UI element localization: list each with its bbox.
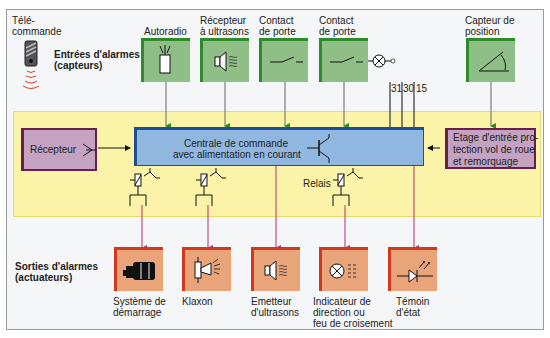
led-icon [395, 256, 435, 286]
actuator-label-led-1: Témoin [396, 296, 429, 307]
actuator-label-emitter-1: Emetteur [251, 296, 292, 307]
lamp-indicator-icon [329, 262, 363, 282]
horn-icon [193, 255, 225, 287]
actuator-label-indicator-1: Indicateur de [313, 296, 371, 307]
actuator-label-horn: Klaxon [182, 296, 213, 307]
receiver-label: Récepteur [30, 144, 76, 156]
relay-icon [128, 168, 168, 206]
input-stage-label-3: et remorquage [453, 156, 518, 168]
input-stage-box: Etage d'entrée pro- tection vol de roue … [445, 128, 536, 169]
actuator-label-starter-2: démarrage [113, 307, 161, 318]
ultrasonic-emitter-icon [263, 260, 291, 282]
receiver-box: Récepteur [21, 128, 97, 171]
actuator-horn [182, 247, 231, 291]
actuator-starter [114, 247, 163, 291]
input-stage-label-1: Etage d'entrée pro- [453, 132, 538, 144]
actuator-label-indicator-3: feu de croisement [313, 318, 393, 329]
central-label-1: Centrale de commande [184, 138, 288, 149]
transistor-icon [307, 134, 337, 164]
actuator-label-starter-1: Système de [113, 296, 166, 307]
central-label-2: avec alimentation en courant [173, 149, 301, 160]
actuator-status-led [388, 247, 437, 291]
actuator-ultrasonic-emitter [251, 247, 300, 291]
input-stage-label-2: tection vol de roue [453, 144, 535, 156]
outputs-title-1: Sorties d'alarmes [15, 261, 98, 272]
actuator-label-indicator-2: direction ou [313, 307, 365, 318]
starter-motor-icon [123, 258, 159, 284]
relay-icon [331, 168, 371, 206]
actuator-label-emitter-2: d'ultrasons [251, 307, 299, 318]
actuator-indicator [319, 247, 368, 291]
actuator-label-led-2: d'état [396, 307, 420, 318]
central-control-unit: Centrale de commande avec alimentation e… [134, 127, 424, 166]
outputs-title-2: (actuateurs) [15, 272, 72, 283]
antenna-input-icon [82, 143, 96, 157]
relay-icon [194, 168, 234, 206]
relays-label: Relais [303, 178, 331, 189]
